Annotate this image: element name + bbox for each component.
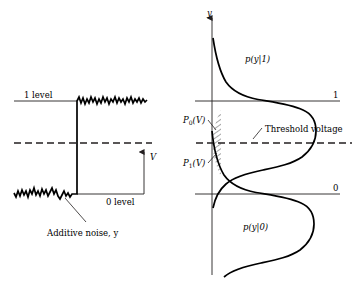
binary-detection-diagram: 1 level 0 level V Additive noise, y (0, 0, 355, 281)
level-one-label: 1 (333, 90, 338, 100)
additive-noise-leader-line (65, 198, 86, 222)
error-prob-p0-label: P0(V) (182, 115, 205, 126)
left-panel-group: 1 level 0 level V Additive noise, y (14, 90, 157, 238)
error-region-p0-hatch (208, 104, 228, 146)
additive-noise-label: Additive noise, y (46, 228, 119, 238)
y-axis-label: y (206, 8, 212, 18)
pdf-one-label: p(y|1) (245, 54, 270, 65)
figure-container: 1 level 0 level V Additive noise, y (0, 0, 355, 281)
threshold-leader-line (253, 128, 262, 139)
level-zero-label: 0 (333, 183, 338, 193)
noisy-signal-waveform (14, 97, 147, 199)
pdf-zero-label: p(y|0) (243, 222, 268, 233)
error-prob-p1-label: P1(V) (182, 158, 205, 169)
threshold-voltage-label: Threshold voltage (265, 124, 343, 134)
one-level-label: 1 level (24, 90, 53, 100)
voltage-axis-label: V (150, 152, 157, 162)
pdf-curve-p-y-given-0 (212, 131, 314, 277)
right-panel-group: y p(y|1) p(y|0) P0(V) P1(V) Threshold vo… (182, 8, 352, 277)
zero-level-label: 0 level (106, 197, 135, 207)
